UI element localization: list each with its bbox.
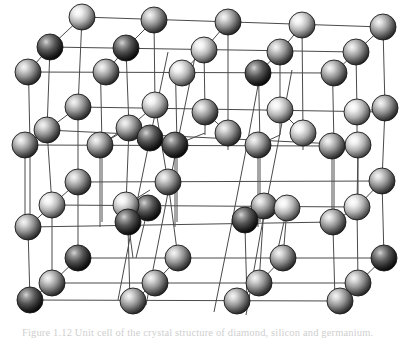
atom-sphere-medium bbox=[155, 169, 181, 195]
atom-sphere-light bbox=[345, 132, 371, 158]
atom-sphere-light bbox=[267, 97, 293, 123]
atom-sphere-medium bbox=[142, 270, 168, 296]
atom-sphere-light bbox=[344, 194, 370, 220]
atom-sphere-dark bbox=[113, 35, 139, 61]
atom-sphere-medium bbox=[369, 168, 395, 194]
lattice-atom bbox=[327, 288, 353, 314]
lattice-atom bbox=[289, 12, 315, 38]
lattice-atom bbox=[267, 97, 293, 123]
lattice-atom bbox=[215, 9, 241, 35]
lattice-atom bbox=[15, 59, 41, 85]
bond bbox=[78, 17, 82, 107]
atom-sphere-light bbox=[344, 99, 370, 125]
lattice-atom bbox=[232, 207, 258, 233]
atom-layer bbox=[12, 4, 398, 314]
bond bbox=[78, 107, 385, 112]
lattice-atom bbox=[169, 60, 195, 86]
lattice-atom bbox=[246, 270, 272, 296]
lattice-atom bbox=[215, 120, 241, 146]
atom-sphere-dark bbox=[17, 287, 43, 313]
atom-sphere-medium bbox=[215, 120, 241, 146]
atom-sphere-dark bbox=[232, 207, 258, 233]
lattice-atom bbox=[115, 209, 141, 235]
lattice-atom bbox=[93, 59, 119, 85]
atom-sphere-medium bbox=[267, 39, 293, 65]
atom-sphere-medium bbox=[15, 59, 41, 85]
atom-sphere-medium bbox=[245, 132, 271, 158]
atom-sphere-dark bbox=[245, 60, 271, 86]
lattice-atom bbox=[319, 133, 345, 159]
atom-sphere-medium bbox=[15, 214, 41, 240]
lattice-atom bbox=[344, 99, 370, 125]
lattice-atom bbox=[17, 287, 43, 313]
lattice-atom bbox=[87, 132, 113, 158]
lattice-atom bbox=[274, 195, 300, 221]
lattice-atom bbox=[65, 169, 91, 195]
atom-sphere-medium bbox=[34, 117, 60, 143]
crystal-lattice-figure: Figure 1.12 Unit cell of the crystal str… bbox=[0, 0, 415, 338]
bond bbox=[78, 181, 382, 182]
atom-sphere-light bbox=[69, 4, 95, 30]
lattice-atom bbox=[120, 288, 146, 314]
atom-sphere-medium bbox=[65, 169, 91, 195]
atom-sphere-light bbox=[39, 192, 65, 218]
lattice-atom bbox=[65, 94, 91, 120]
atom-sphere-medium bbox=[120, 288, 146, 314]
lattice-atom bbox=[137, 125, 163, 151]
lattice-atom bbox=[113, 35, 139, 61]
bond bbox=[30, 300, 340, 301]
lattice-atom bbox=[321, 60, 347, 86]
bond bbox=[245, 227, 247, 301]
lattice-atom bbox=[370, 14, 396, 40]
atom-sphere-medium bbox=[165, 245, 191, 271]
bond bbox=[52, 205, 357, 207]
lattice-atom bbox=[69, 4, 95, 30]
lattice-atom bbox=[372, 95, 398, 121]
lattice-atom bbox=[65, 245, 91, 271]
lattice-atom bbox=[245, 132, 271, 158]
lattice-atom bbox=[165, 245, 191, 271]
atom-sphere-medium bbox=[12, 132, 38, 158]
lattice-atom bbox=[162, 132, 188, 158]
lattice-atom bbox=[267, 39, 293, 65]
atom-sphere-light bbox=[169, 60, 195, 86]
atom-sphere-dark bbox=[65, 245, 91, 271]
atom-sphere-light bbox=[191, 37, 217, 63]
lattice-atom bbox=[224, 288, 250, 314]
atom-sphere-dark bbox=[37, 34, 63, 60]
atom-sphere-medium bbox=[327, 288, 353, 314]
atom-sphere-dark bbox=[162, 132, 188, 158]
atom-sphere-light bbox=[274, 195, 300, 221]
atom-sphere-dark bbox=[137, 125, 163, 151]
atom-sphere-medium bbox=[321, 60, 347, 86]
atom-sphere-medium bbox=[270, 245, 296, 271]
atom-sphere-medium bbox=[65, 94, 91, 120]
lattice-atom bbox=[270, 245, 296, 271]
lattice-diagram bbox=[0, 0, 415, 338]
lattice-atom bbox=[34, 117, 60, 143]
lattice-atom bbox=[344, 194, 370, 220]
lattice-atom bbox=[320, 209, 346, 235]
atom-sphere-light bbox=[290, 120, 316, 146]
lattice-atom bbox=[39, 192, 65, 218]
atom-sphere-medium bbox=[192, 99, 218, 125]
lattice-atom bbox=[245, 60, 271, 86]
atom-sphere-medium bbox=[224, 288, 250, 314]
lattice-atom bbox=[343, 39, 369, 65]
atom-sphere-medium bbox=[141, 7, 167, 33]
atom-sphere-medium bbox=[372, 95, 398, 121]
atom-sphere-medium bbox=[246, 270, 272, 296]
lattice-atom bbox=[142, 92, 168, 118]
figure-caption: Figure 1.12 Unit cell of the crystal str… bbox=[22, 327, 394, 338]
atom-sphere-dark bbox=[371, 245, 397, 271]
atom-sphere-medium bbox=[87, 132, 113, 158]
atom-sphere-light bbox=[142, 92, 168, 118]
atom-sphere-medium bbox=[343, 39, 369, 65]
atom-sphere-light bbox=[289, 12, 315, 38]
lattice-atom bbox=[141, 7, 167, 33]
lattice-atom bbox=[191, 37, 217, 63]
lattice-atom bbox=[369, 168, 395, 194]
lattice-atom bbox=[12, 132, 38, 158]
lattice-atom bbox=[39, 270, 65, 296]
lattice-atom bbox=[290, 120, 316, 146]
